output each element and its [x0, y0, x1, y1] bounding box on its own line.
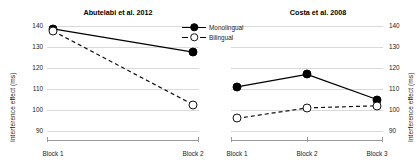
x-axis-cap-end-left	[198, 137, 199, 142]
figure-canvas: Interference effect (ms) Interference ef…	[0, 0, 419, 166]
legend-key-monolingual-icon	[181, 22, 207, 32]
x-axis-line-left	[47, 140, 199, 141]
panel-abutelabi-2012: Abutelabi et al. 2012 140 130 120 110 10…	[0, 0, 210, 166]
data-point-mono-block2	[189, 48, 198, 57]
data-point-mono-block1	[233, 82, 242, 91]
x-axis-cap-start-left	[47, 137, 48, 142]
legend-label-bilingual: Bilingual	[209, 34, 233, 41]
legend-label-monolingual: Monolingual	[209, 24, 243, 31]
legend-item-bilingual: Bilingual	[181, 32, 261, 42]
data-point-bi-block2	[303, 103, 312, 112]
data-point-bi-block1	[49, 27, 58, 36]
series-lines-left	[0, 0, 210, 166]
x-tick-right-block3: Block 3	[367, 150, 388, 157]
x-tick-right-block1: Block 1	[227, 150, 248, 157]
legend-item-monolingual: Monolingual	[181, 22, 261, 32]
data-point-bi-block1	[233, 114, 242, 123]
x-axis-cap-end-right	[382, 137, 383, 142]
legend: Monolingual Bilingual	[181, 22, 261, 42]
x-tick-left-block1: Block 1	[43, 150, 64, 157]
data-point-mono-block2	[303, 70, 312, 79]
x-tick-right-block2: Block 2	[297, 150, 318, 157]
data-point-bi-block2	[189, 100, 198, 109]
x-tick-left-block2: Block 2	[183, 150, 204, 157]
x-axis-cap-start-right	[231, 137, 232, 142]
legend-key-bilingual-icon	[181, 32, 207, 42]
x-axis-tick-mid-right	[307, 137, 308, 142]
data-point-bi-block3	[373, 101, 382, 110]
